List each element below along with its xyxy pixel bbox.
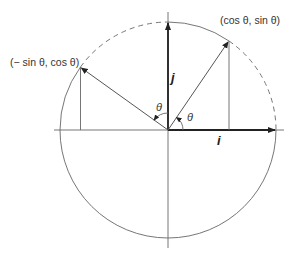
- label-theta-left: θ: [156, 101, 162, 113]
- label-i-axis: i: [217, 133, 221, 148]
- circle-dashed-right-arc: [229, 41, 276, 130]
- circle-dashed-left-arc: [81, 22, 169, 67]
- label-cos-sin-point: (cos θ, sin θ): [220, 14, 280, 26]
- rotated-j-vector: [82, 68, 169, 130]
- rotated-i-vector: [168, 42, 228, 130]
- label-theta-right: θ: [187, 111, 193, 123]
- angle-arc-right: [177, 118, 184, 131]
- label-j-axis: j: [169, 70, 175, 85]
- angle-arc-left: [154, 113, 168, 120]
- label-neg-sin-cos-point: (− sin θ, cos θ): [10, 56, 79, 68]
- unit-circle-diagram: (cos θ, sin θ) (− sin θ, cos θ) j i θ θ: [0, 0, 295, 263]
